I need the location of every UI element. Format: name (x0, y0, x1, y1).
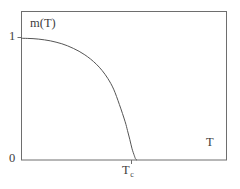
plot-frame (22, 12, 227, 161)
tc-subscript-letter: c (130, 170, 134, 179)
magnetization-curve (22, 38, 137, 160)
magnetization-figure: m(T) 1 0 Tc T (0, 0, 240, 189)
y-tick-label-1: 1 (9, 30, 15, 43)
y-axis-title: m(T) (30, 17, 56, 30)
y-tick-label-0: 0 (9, 152, 15, 165)
x-tick-label-tc: Tc (122, 164, 133, 177)
x-axis-title: T (206, 136, 214, 149)
tc-base-letter: T (122, 163, 130, 177)
